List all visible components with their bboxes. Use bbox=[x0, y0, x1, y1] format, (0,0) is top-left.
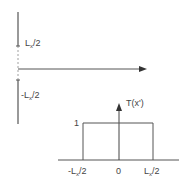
y-tick-one: 1 bbox=[74, 118, 79, 128]
arrow-right-icon bbox=[139, 66, 147, 72]
transmission-plot bbox=[58, 103, 179, 160]
aperture-screen bbox=[16, 12, 20, 124]
aperture-diagram: Lx/2 -Lx/2 T(x') 1 -Lx/2 0 Lx/2 bbox=[0, 0, 179, 183]
x-tick-neg: -Lx/2 bbox=[68, 166, 87, 177]
top-edge-label: Lx/2 bbox=[25, 38, 41, 49]
function-label: T(x') bbox=[126, 98, 144, 108]
x-tick-pos: Lx/2 bbox=[144, 166, 160, 177]
bottom-edge-label: -Lx/2 bbox=[21, 90, 40, 101]
x-tick-zero: 0 bbox=[116, 166, 121, 176]
arrow-up-icon bbox=[116, 103, 122, 111]
top-hat-function bbox=[83, 123, 153, 160]
